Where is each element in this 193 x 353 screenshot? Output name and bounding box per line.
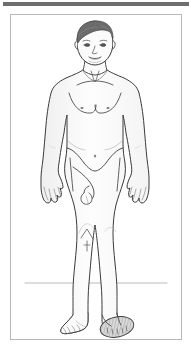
left-nipple xyxy=(80,107,83,109)
left-ear xyxy=(75,41,77,49)
screenshot-root: Standing male figure, anterior view xyxy=(0,0,193,353)
body-figure-svg xyxy=(11,15,181,339)
illustration-frame: Standing male figure, anterior view xyxy=(10,14,182,340)
right-ear xyxy=(113,41,115,49)
right-nipple xyxy=(106,107,109,109)
navel xyxy=(94,155,96,158)
left-foot xyxy=(61,313,88,334)
body-outline xyxy=(41,63,149,334)
top-rule xyxy=(3,2,189,6)
scrotum xyxy=(81,193,92,204)
